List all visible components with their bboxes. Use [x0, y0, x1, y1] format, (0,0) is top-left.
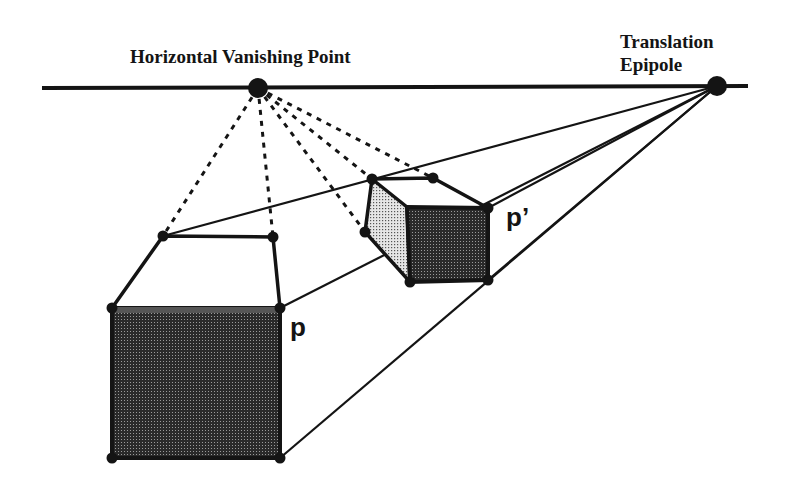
vanishing-point-label: Horizontal Vanishing Point — [130, 46, 351, 67]
large-box-top-edges — [112, 236, 280, 308]
small-box-front-face — [407, 207, 488, 282]
epipole-label-line1: Translation — [620, 31, 714, 52]
point-p-prime-label: p’ — [506, 202, 529, 232]
point-p-label: p — [290, 312, 306, 342]
vanishing-point-dot — [248, 78, 268, 98]
epipole-dot — [707, 76, 727, 96]
horizon-line — [42, 86, 748, 88]
small-box-side-face — [365, 179, 410, 282]
large-box-front-face — [112, 308, 280, 458]
small-box — [365, 86, 717, 282]
large-box — [112, 236, 280, 458]
epipole-label-line2: Epipole — [620, 54, 682, 75]
perspective-diagram: Horizontal Vanishing Point Translation E… — [0, 0, 786, 489]
